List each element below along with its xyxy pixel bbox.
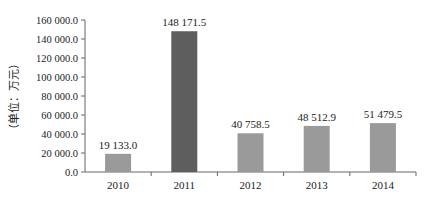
y-tick-label: 40 000.0 — [41, 129, 78, 140]
x-tick-label: 2014 — [372, 179, 395, 191]
bar-2013 — [304, 126, 330, 172]
x-axis — [85, 172, 416, 176]
y-tick-label: 140 000.0 — [36, 34, 78, 45]
x-tick-label: 2011 — [174, 179, 196, 191]
y-axis-label: （单位：万元） — [7, 58, 20, 135]
y-tick-label: 0.0 — [65, 167, 78, 178]
bar-2010 — [105, 154, 131, 172]
bar-2014 — [370, 123, 396, 172]
y-axis: 0.020 000.040 000.060 000.080 000.0100 0… — [36, 15, 85, 178]
x-tick-label: 2010 — [107, 179, 130, 191]
y-tick-label: 60 000.0 — [41, 110, 78, 121]
bar-2012 — [238, 133, 264, 172]
x-tick-label: 2012 — [240, 179, 262, 191]
bar-2011 — [171, 31, 197, 172]
y-tick-label: 100 000.0 — [36, 72, 78, 83]
y-tick-label: 20 000.0 — [41, 148, 78, 159]
y-tick-label: 160 000.0 — [36, 15, 78, 26]
y-tick-label: 120 000.0 — [36, 53, 78, 64]
bar-chart: 0.020 000.040 000.060 000.080 000.0100 0… — [0, 0, 428, 204]
bar-value-label: 48 512.9 — [297, 111, 336, 123]
bar-value-label: 51 479.5 — [364, 108, 403, 120]
bar-value-label: 19 133.0 — [99, 139, 138, 151]
bars: 19 133.02010148 171.5201140 758.5201248 … — [99, 16, 403, 191]
y-tick-label: 80 000.0 — [41, 91, 78, 102]
x-tick-label: 2013 — [306, 179, 329, 191]
bar-value-label: 148 171.5 — [162, 16, 207, 28]
bar-value-label: 40 758.5 — [231, 118, 270, 130]
